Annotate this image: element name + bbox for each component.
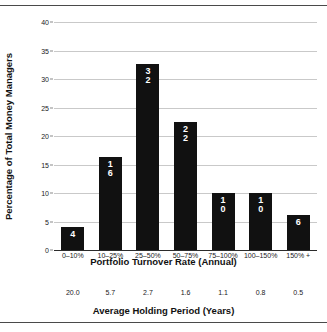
- y-tick-label: 0: [45, 247, 49, 254]
- secondary-axis-tick-label: 20.0: [66, 289, 80, 296]
- bar[interactable]: 6: [287, 215, 310, 250]
- y-tick-mark: [50, 136, 53, 137]
- y-tick-mark: [50, 250, 53, 251]
- bar-value-label: 32: [136, 67, 159, 85]
- y-tick-mark: [50, 50, 53, 51]
- x-tick-label: 0–10%: [62, 252, 84, 259]
- gridline: [54, 108, 317, 109]
- y-tick-label: 40: [41, 19, 49, 26]
- bar-value-digit: 6: [287, 218, 310, 227]
- bar[interactable]: 22: [174, 122, 197, 250]
- bottom-divider: [0, 322, 327, 323]
- secondary-axis-tick-label: 1.1: [218, 289, 228, 296]
- bar-value-label: 22: [174, 125, 197, 143]
- y-tick-mark: [50, 79, 53, 80]
- bar[interactable]: 32: [136, 64, 159, 250]
- secondary-axis-tick-label: 0.8: [256, 289, 266, 296]
- bar-value-label: 10: [249, 196, 272, 214]
- y-tick-mark: [50, 164, 53, 165]
- bar-value-digit: 0: [212, 205, 235, 214]
- gridline: [54, 22, 317, 23]
- axis-baseline: [54, 250, 317, 251]
- bar-value-digit: 6: [99, 169, 122, 178]
- secondary-axis-title: Average Holding Period (Years): [0, 305, 327, 316]
- y-tick-label: 15: [41, 161, 49, 168]
- y-axis-title-text: Percentage of Total Money Managers: [4, 52, 15, 219]
- gridline: [54, 79, 317, 80]
- secondary-axis-tick-label: 5.7: [105, 289, 115, 296]
- secondary-axis-tick-label: 2.7: [143, 289, 153, 296]
- x-tick-label: 150% +: [286, 252, 310, 259]
- plot-area: 0510152025303540416322210106: [54, 22, 317, 250]
- x-tick-label: 100–150%: [244, 252, 277, 259]
- bar[interactable]: 4: [61, 227, 84, 250]
- bar-value-label: 16: [99, 160, 122, 178]
- y-tick-label: 30: [41, 76, 49, 83]
- secondary-axis-tick-label: 1.6: [181, 289, 191, 296]
- chart-figure: Percentage of Total Money Managers 05101…: [0, 0, 327, 332]
- bar[interactable]: 16: [99, 157, 122, 250]
- y-tick-mark: [50, 107, 53, 108]
- y-tick-mark: [50, 193, 53, 194]
- bar[interactable]: 10: [212, 193, 235, 250]
- y-tick-label: 25: [41, 104, 49, 111]
- x-tick-label: 25–50%: [135, 252, 161, 259]
- x-tick-label: 75–100%: [208, 252, 238, 259]
- bar-value-digit: 2: [136, 76, 159, 85]
- gridline: [54, 51, 317, 52]
- x-axis-title: Portfolio Turnover Rate (Annual): [0, 256, 327, 267]
- bar-value-digit: 2: [174, 134, 197, 143]
- bar-value-label: 10: [212, 196, 235, 214]
- bar-value-label: 6: [287, 218, 310, 227]
- y-tick-label: 5: [45, 218, 49, 225]
- y-tick-mark: [50, 221, 53, 222]
- x-tick-label: 10–25%: [97, 252, 123, 259]
- y-tick-mark: [50, 22, 53, 23]
- y-tick-label: 10: [41, 190, 49, 197]
- bar-value-digit: 0: [249, 205, 272, 214]
- x-tick-label: 50–75%: [173, 252, 199, 259]
- bar-value-digit: 4: [61, 230, 84, 239]
- y-axis-title: Percentage of Total Money Managers: [2, 22, 16, 250]
- bar-value-label: 4: [61, 230, 84, 239]
- secondary-axis-tick-label: 0.5: [293, 289, 303, 296]
- y-tick-label: 20: [41, 133, 49, 140]
- top-divider: [0, 5, 327, 6]
- bar[interactable]: 10: [249, 193, 272, 250]
- y-tick-label: 35: [41, 47, 49, 54]
